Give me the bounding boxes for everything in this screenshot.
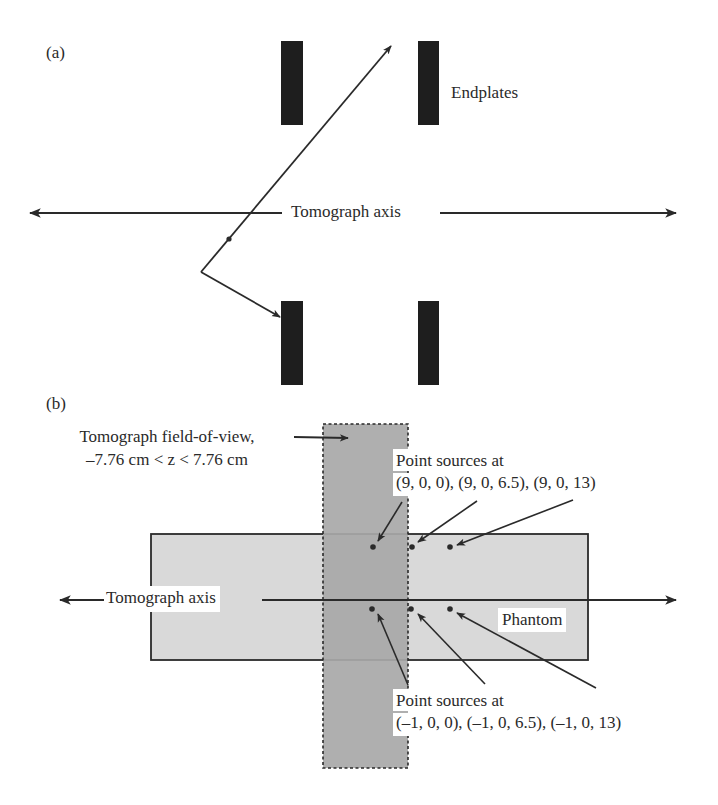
panel-b-label: (b) [46, 394, 66, 414]
photon-path-down-arrow [201, 272, 280, 317]
fov-label-line2: –7.76 cm < z < 7.76 cm [52, 450, 282, 470]
annihilation-point-dot [226, 236, 231, 241]
phantom-label: Phantom [498, 608, 566, 632]
point-source-9-0-13 [447, 544, 453, 550]
diagram-canvas [0, 0, 718, 805]
bottom-sources-line1: Point sources at [393, 689, 507, 711]
fov-label-arrow [294, 437, 348, 438]
point-source-9-0-0 [370, 544, 376, 550]
endplate-bottom-left [281, 301, 303, 385]
top-sources-line2: (9, 0, 0), (9, 0, 6.5), (9, 0, 13) [393, 473, 599, 496]
point-source-9-0-6.5 [409, 544, 415, 550]
bottom-sources-line2: (–1, 0, 0), (–1, 0, 6.5), (–1, 0, 13) [393, 713, 624, 736]
endplates-label: Endplates [451, 83, 518, 103]
point-source-m1-0-13 [447, 606, 453, 612]
endplate-bottom-right [418, 301, 439, 385]
endplate-top-right [418, 41, 439, 125]
axis-a-label: Tomograph axis [289, 202, 403, 222]
axis-b-label: Tomograph axis [104, 586, 220, 612]
fov-label-line1: Tomograph field-of-view, [52, 427, 282, 447]
top-sources-line1: Point sources at [393, 449, 507, 471]
endplate-top-left [281, 41, 303, 125]
panel-a-label: (a) [46, 43, 65, 63]
point-source-m1-0-6.5 [408, 606, 414, 612]
point-source-m1-0-0 [369, 606, 375, 612]
